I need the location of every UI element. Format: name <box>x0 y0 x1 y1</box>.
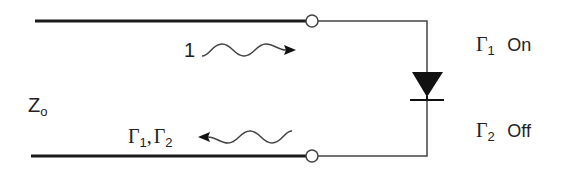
impedance-symbol: Z <box>28 94 40 116</box>
impedance-subscript: o <box>40 104 47 119</box>
incident-wave-arrow-icon <box>202 44 296 56</box>
gamma2-subscript: 2 <box>165 135 172 150</box>
shunt-wire <box>318 21 427 72</box>
state-off-symbol: Γ <box>476 119 488 141</box>
diode-icon <box>410 72 444 101</box>
gamma1-symbol: Γ <box>128 125 140 147</box>
gamma1-subscript: 1 <box>140 135 147 150</box>
terminal-bottom-icon <box>306 150 318 162</box>
transmission-line-diagram <box>0 0 568 172</box>
state-on-subscript: 1 <box>488 43 495 58</box>
terminal-top-icon <box>306 15 318 27</box>
impedance-label: Zo <box>28 95 47 115</box>
state-off-label: Γ2 Off <box>476 120 531 140</box>
state-on-text: On <box>507 35 531 55</box>
incident-label: 1 <box>184 40 195 60</box>
state-on-label: Γ1 On <box>476 34 531 54</box>
gamma2-symbol: Γ <box>154 125 166 147</box>
shunt-wire-return <box>318 100 427 156</box>
incident-value: 1 <box>184 39 195 61</box>
state-off-text: Off <box>507 121 531 141</box>
separator: , <box>147 125 152 147</box>
state-off-subscript: 2 <box>488 129 495 144</box>
state-on-symbol: Γ <box>476 33 488 55</box>
reflected-label: Γ1,Γ2 <box>128 126 173 146</box>
reflected-wave-arrow-icon <box>198 131 292 143</box>
